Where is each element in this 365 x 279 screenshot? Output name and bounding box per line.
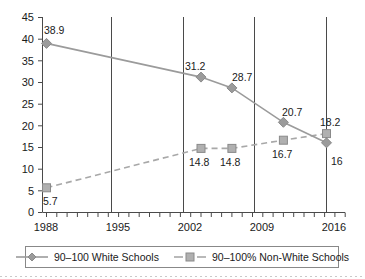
data-label-nonwhite-2003: 14.8 (189, 156, 210, 168)
y-label-45: 45 (22, 11, 34, 23)
y-label-35: 35 (22, 55, 34, 67)
data-point-nonwhite-2016 (323, 130, 331, 138)
y-label-25: 25 (22, 98, 34, 110)
x-axis-minor-ticks (47, 213, 346, 218)
data-point-nonwhite-2003 (197, 144, 205, 152)
y-label-40: 40 (22, 33, 34, 45)
data-label-white-2016: 16 (331, 155, 343, 167)
data-point-white-2011 (278, 117, 288, 127)
y-label-10: 10 (22, 163, 34, 175)
data-label-nonwhite-2006: 14.8 (220, 156, 241, 168)
data-labels-white: 38.9 31.2 28.7 20.7 16 (44, 24, 343, 167)
x-label-2002: 2002 (178, 221, 202, 233)
legend-key-solid-diamond-icon (15, 251, 49, 263)
data-point-white-2016 (322, 138, 332, 148)
chart-screenshot: 45 40 35 30 25 20 15 10 5 0 (0, 0, 365, 279)
legend-key-dashed-square-icon (173, 251, 207, 263)
chart-legend: 90–100 White Schools 90–100% Non-White S… (25, 246, 339, 268)
y-label-30: 30 (22, 76, 34, 88)
series-line-white (47, 43, 327, 142)
data-label-white-1988: 38.9 (44, 24, 65, 36)
line-chart-svg: 45 40 35 30 25 20 15 10 5 0 (0, 0, 365, 240)
data-label-nonwhite-2016: 18.2 (320, 116, 341, 128)
data-point-white-2003 (196, 72, 206, 82)
legend-label-nonwhite-schools: 90–100% Non-White Schools (212, 251, 349, 263)
y-axis-labels: 45 40 35 30 25 20 15 10 5 0 (22, 11, 34, 218)
data-point-nonwhite-2006 (228, 144, 236, 152)
data-label-nonwhite-2011: 16.7 (272, 148, 293, 160)
data-label-white-2006: 28.7 (232, 71, 253, 83)
series-markers-nonwhite (43, 130, 331, 192)
series-markers-white (42, 38, 332, 147)
x-label-1988: 1988 (34, 221, 58, 233)
data-point-nonwhite-1988 (43, 184, 51, 192)
y-axis-ticks (38, 18, 43, 213)
legend-item-white-schools[interactable]: 90–100 White Schools (15, 251, 159, 263)
data-label-white-2003: 31.2 (185, 60, 206, 72)
data-point-nonwhite-2011 (279, 136, 287, 144)
data-label-nonwhite-1988: 5.7 (43, 195, 58, 207)
data-labels-nonwhite: 5.7 14.8 14.8 16.7 18.2 (43, 116, 341, 207)
y-label-0: 0 (28, 206, 34, 218)
y-label-5: 5 (28, 185, 34, 197)
bottom-divider (0, 276, 365, 277)
x-axis-labels: 1988 1995 2002 2009 2016 (34, 221, 346, 233)
data-label-white-2011: 20.7 (282, 106, 303, 118)
chart-plot-area: 45 40 35 30 25 20 15 10 5 0 (0, 0, 365, 240)
x-label-1995: 1995 (106, 221, 130, 233)
legend-label-white-schools: 90–100 White Schools (54, 251, 159, 263)
x-label-2009: 2009 (250, 221, 274, 233)
legend-item-nonwhite-schools[interactable]: 90–100% Non-White Schools (173, 251, 349, 263)
y-label-15: 15 (22, 141, 34, 153)
y-label-20: 20 (22, 120, 34, 132)
x-label-2016: 2016 (322, 221, 346, 233)
data-point-white-2006 (227, 83, 237, 93)
